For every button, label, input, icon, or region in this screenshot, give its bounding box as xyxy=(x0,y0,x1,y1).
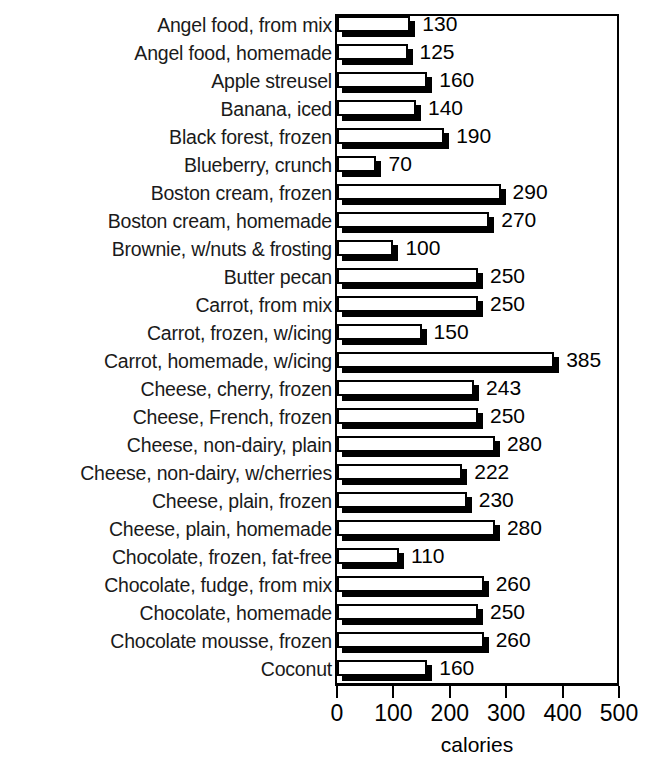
x-tick-label: 100 xyxy=(363,700,423,726)
bar-value-label: 270 xyxy=(501,209,536,231)
bar-value-label: 280 xyxy=(507,433,542,455)
x-tick xyxy=(336,686,338,698)
x-tick-label: 400 xyxy=(533,700,593,726)
category-label: Carrot, homemade, w/icing xyxy=(0,351,332,371)
category-label: Butter pecan xyxy=(0,267,332,287)
bar-value-label: 222 xyxy=(474,461,509,483)
category-label: Chocolate, fudge, from mix xyxy=(0,575,332,595)
category-label: Black forest, frozen xyxy=(0,127,332,147)
bar-value-label: 125 xyxy=(420,41,455,63)
bar-value-label: 160 xyxy=(439,69,474,91)
category-label: Cheese, non-dairy, plain xyxy=(0,435,332,455)
bar-value-label: 280 xyxy=(507,517,542,539)
bar-value-label: 190 xyxy=(456,125,491,147)
category-label: Cheese, cherry, frozen xyxy=(0,379,332,399)
bar-value-label: 150 xyxy=(434,321,469,343)
category-label: Boston cream, frozen xyxy=(0,183,332,203)
category-label: Brownie, w/nuts & frosting xyxy=(0,239,332,259)
bar-value-label: 243 xyxy=(486,377,521,399)
bar-value-label: 130 xyxy=(422,13,457,35)
category-label-column: Angel food, from mixAngel food, homemade… xyxy=(0,0,332,672)
category-label: Chocolate, frozen, fat-free xyxy=(0,547,332,567)
category-label: Apple streusel xyxy=(0,71,332,91)
x-axis-title: calories xyxy=(335,733,619,757)
x-tick xyxy=(449,686,451,698)
x-tick xyxy=(562,686,564,698)
x-tick-label: 500 xyxy=(589,700,649,726)
category-label: Carrot, frozen, w/icing xyxy=(0,323,332,343)
x-tick-label: 0 xyxy=(307,700,367,726)
bar-value-label: 260 xyxy=(496,573,531,595)
category-label: Blueberry, crunch xyxy=(0,155,332,175)
category-label: Boston cream, homemade xyxy=(0,211,332,231)
category-label: Carrot, from mix xyxy=(0,295,332,315)
x-tick xyxy=(618,686,620,698)
category-label: Cheese, plain, homemade xyxy=(0,519,332,539)
bar-value-label: 290 xyxy=(513,181,548,203)
x-tick-label: 300 xyxy=(476,700,536,726)
bar-value-label: 250 xyxy=(490,265,525,287)
bar-value-label: 250 xyxy=(490,601,525,623)
bar-value-label: 250 xyxy=(490,405,525,427)
calories-bar-chart: Angel food, from mixAngel food, homemade… xyxy=(0,0,654,770)
category-label: Banana, iced xyxy=(0,99,332,119)
category-label: Chocolate mousse, frozen xyxy=(0,631,332,651)
x-tick xyxy=(392,686,394,698)
category-label: Chocolate, homemade xyxy=(0,603,332,623)
x-tick xyxy=(505,686,507,698)
bar-value-label: 70 xyxy=(388,153,411,175)
category-label: Cheese, non-dairy, w/cherries xyxy=(0,463,332,483)
bar-value-label: 100 xyxy=(405,237,440,259)
category-label: Cheese, plain, frozen xyxy=(0,491,332,511)
bar-value-label: 160 xyxy=(439,657,474,679)
bar-value-label: 260 xyxy=(496,629,531,651)
bar-value-label: 140 xyxy=(428,97,463,119)
category-label: Coconut xyxy=(0,659,332,679)
bar-value-label: 230 xyxy=(479,489,514,511)
category-label: Angel food, from mix xyxy=(0,15,332,35)
x-axis-line xyxy=(335,684,619,686)
category-label: Angel food, homemade xyxy=(0,43,332,63)
bar-value-label: 250 xyxy=(490,293,525,315)
value-label-layer: 1301251601401907029027010025025015038524… xyxy=(337,14,654,685)
bar-value-label: 110 xyxy=(411,545,444,567)
category-label: Cheese, French, frozen xyxy=(0,407,332,427)
x-tick-label: 200 xyxy=(420,700,480,726)
bar-value-label: 385 xyxy=(566,349,601,371)
